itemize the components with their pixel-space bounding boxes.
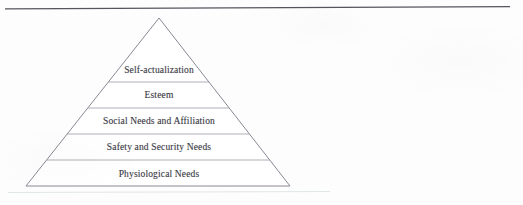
tier-label-social-needs-and-affiliation: Social Needs and Affiliation bbox=[103, 116, 215, 126]
figure-page: Self-actualization Esteem Social Needs a… bbox=[0, 0, 523, 205]
pyramid-figure bbox=[0, 0, 523, 205]
scan-artifact-line bbox=[8, 192, 330, 193]
tier-label-esteem: Esteem bbox=[145, 90, 174, 100]
tier-label-physiological-needs: Physiological Needs bbox=[119, 169, 200, 179]
tier-label-safety-and-security-needs: Safety and Security Needs bbox=[107, 142, 211, 152]
tier-label-self-actualization: Self-actualization bbox=[124, 65, 194, 75]
pyramid-outline bbox=[26, 18, 290, 186]
horizontal-rule bbox=[5, 7, 510, 9]
